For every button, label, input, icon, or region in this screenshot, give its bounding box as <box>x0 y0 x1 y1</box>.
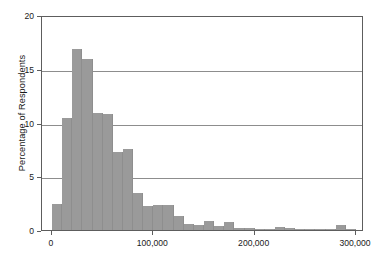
histogram-bar <box>305 229 315 230</box>
x-tick-label-0: 0 <box>49 238 54 248</box>
y-tick-mark-0 <box>37 231 41 232</box>
plot-area <box>41 16 363 231</box>
histogram-bar <box>72 49 82 230</box>
y-tick-label-20: 20 <box>8 11 34 21</box>
y-tick-label-0: 0 <box>8 226 34 236</box>
histogram-bar <box>133 193 143 230</box>
histogram-bar <box>234 228 244 230</box>
histogram-bar <box>315 229 325 230</box>
histogram-bar <box>265 229 275 230</box>
x-tick-mark-2 <box>254 231 255 235</box>
histogram-bar <box>214 226 224 230</box>
histogram-bar <box>275 227 285 230</box>
histogram-bar <box>143 206 153 230</box>
histogram-bar <box>163 205 173 230</box>
y-tick-label-10: 10 <box>8 119 34 129</box>
histogram-bar <box>204 221 214 230</box>
histogram-bar <box>224 222 234 230</box>
histogram-chart: Percentage of Respondents 05101520 0100,… <box>0 0 383 256</box>
y-tick-label-15: 15 <box>8 65 34 75</box>
histogram-bar <box>52 204 62 230</box>
histogram-bar <box>103 114 113 230</box>
histogram-bar <box>295 229 305 230</box>
histogram-bar <box>326 229 336 230</box>
histogram-bar <box>153 205 163 230</box>
x-tick-mark-1 <box>152 231 153 235</box>
histogram-bar <box>82 59 92 230</box>
x-tick-label-2: 200,000 <box>238 238 269 248</box>
histogram-bar <box>285 228 295 230</box>
histogram-bar <box>113 152 123 230</box>
histogram-bar <box>62 118 72 230</box>
histogram-bar <box>194 225 204 230</box>
histogram-bar <box>184 224 194 230</box>
histogram-bar <box>245 228 255 230</box>
histogram-bar <box>346 229 356 230</box>
x-tick-label-3: 300,000 <box>339 238 370 248</box>
histogram-bar <box>123 149 133 230</box>
x-tick-mark-3 <box>355 231 356 235</box>
histogram-bar <box>174 216 184 230</box>
histogram-bar <box>336 225 346 230</box>
histogram-bar <box>93 113 103 230</box>
histogram-bar <box>255 229 265 230</box>
x-tick-label-1: 100,000 <box>137 238 168 248</box>
bars-layer <box>42 17 362 230</box>
y-tick-label-5: 5 <box>8 172 34 182</box>
x-tick-mark-0 <box>51 231 52 235</box>
